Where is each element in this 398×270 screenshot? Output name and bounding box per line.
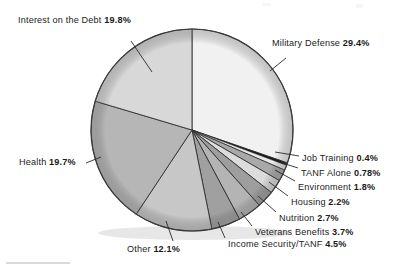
- label-name: Health: [19, 157, 46, 167]
- label-name: Interest on the Debt: [18, 15, 102, 25]
- label-value: 19.8%: [104, 15, 131, 25]
- label-name: Other: [127, 244, 151, 254]
- label-veterans-benefits: Veterans Benefits 3.7%: [255, 227, 354, 238]
- figure-canvas: Interest on the Debt 19.8% Military Defe…: [0, 0, 398, 270]
- scan-artifact: [356, 4, 363, 8]
- label-value: 1.8%: [354, 182, 375, 192]
- label-name: Job Training: [302, 153, 354, 163]
- label-nutrition: Nutrition 2.7%: [279, 213, 339, 224]
- label-value: 4.5%: [325, 239, 346, 249]
- label-name: Environment: [298, 182, 351, 192]
- label-name: Military Defense: [272, 38, 340, 48]
- label-name: TANF Alone: [301, 168, 351, 178]
- label-military-defense: Military Defense 29.4%: [272, 38, 370, 49]
- label-name: Housing: [291, 197, 326, 207]
- label-value: 29.4%: [343, 38, 370, 48]
- label-environment: Environment 1.8%: [298, 182, 375, 193]
- label-value: 12.1%: [153, 244, 180, 254]
- label-tanf-alone: TANF Alone 0.78%: [301, 168, 381, 179]
- label-name: Nutrition: [279, 213, 315, 223]
- label-interest-on-the-debt: Interest on the Debt 19.8%: [18, 15, 131, 26]
- label-name: Income Security/TANF: [228, 239, 322, 249]
- label-value: 3.7%: [332, 227, 353, 237]
- label-value: 19.7%: [49, 157, 76, 167]
- leader-military-defense: [270, 58, 286, 71]
- label-value: 0.78%: [354, 168, 381, 178]
- label-name: Veterans Benefits: [255, 227, 329, 237]
- label-other: Other 12.1%: [127, 244, 180, 255]
- label-value: 2.2%: [328, 197, 349, 207]
- scan-artifact: [262, 3, 271, 6]
- label-value: 0.4%: [356, 153, 377, 163]
- label-health: Health 19.7%: [19, 157, 76, 168]
- label-income-security-tanf: Income Security/TANF 4.5%: [228, 239, 347, 250]
- label-value: 2.7%: [317, 213, 338, 223]
- label-housing: Housing 2.2%: [291, 197, 350, 208]
- page-rule: [6, 262, 70, 264]
- label-job-training: Job Training 0.4%: [302, 153, 378, 164]
